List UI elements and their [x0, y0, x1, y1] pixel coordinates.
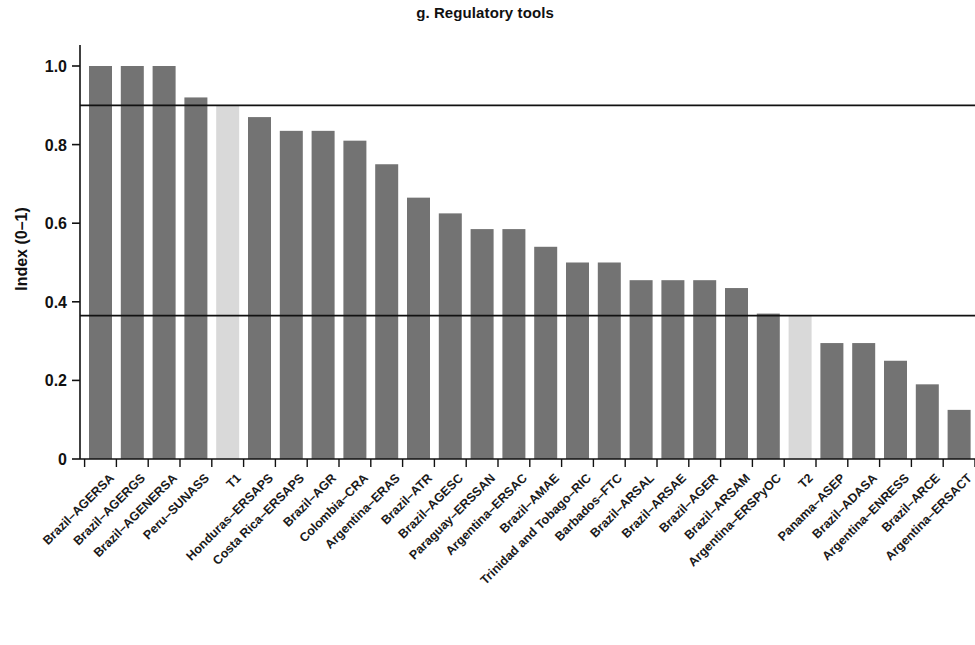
chart-title: g. Regulatory tools: [0, 4, 970, 21]
y-axis-title: Index (0–1): [13, 149, 31, 349]
bar: [916, 384, 939, 459]
bar: [121, 66, 144, 459]
threshold-bar: [216, 105, 239, 459]
bar: [502, 229, 525, 459]
bar: [598, 263, 621, 460]
bar: [312, 131, 335, 459]
threshold-bar: [789, 316, 812, 459]
bar: [630, 280, 653, 459]
bar: [661, 280, 684, 459]
bar: [184, 97, 207, 459]
bar: [153, 66, 176, 459]
bar: [407, 198, 430, 459]
y-tick-label: 0: [58, 451, 67, 468]
y-tick-label: 0.2: [45, 372, 67, 389]
bar: [248, 117, 271, 459]
y-tick-label: 0.4: [45, 294, 67, 311]
bar: [852, 343, 875, 459]
bar: [884, 361, 907, 459]
bar: [375, 164, 398, 459]
bar: [89, 66, 112, 459]
bar: [948, 410, 971, 459]
bar: [439, 213, 462, 459]
bar: [471, 229, 494, 459]
bar: [534, 247, 557, 459]
bar: [343, 141, 366, 459]
plot-area: 00.20.40.60.81.0: [75, 45, 955, 475]
bar: [693, 280, 716, 459]
y-tick-label: 1.0: [45, 58, 67, 75]
bar: [280, 131, 303, 459]
bar: [566, 263, 589, 460]
bar: [757, 314, 780, 459]
y-tick-label: 0.6: [45, 215, 67, 232]
bar-chart-svg: 00.20.40.60.81.0: [75, 45, 955, 475]
bar: [820, 343, 843, 459]
bar: [725, 288, 748, 459]
y-tick-label: 0.8: [45, 137, 67, 154]
